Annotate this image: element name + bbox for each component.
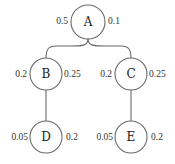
- node-b-left-value: 0.2: [15, 69, 27, 79]
- node-e: E 0.05 0.2: [96, 121, 163, 153]
- node-a: A 0.5 0.1: [56, 5, 120, 39]
- tree-diagram: A 0.5 0.1 B 0.2 0.25 C 0.2 0.25 D 0.05 0…: [0, 0, 175, 164]
- node-d-label: D: [41, 130, 51, 144]
- node-a-label: A: [83, 15, 93, 29]
- node-d-left-value: 0.05: [11, 132, 28, 142]
- node-b-right-value: 0.25: [64, 69, 81, 79]
- node-c: C 0.2 0.25: [100, 58, 166, 90]
- node-c-left-value: 0.2: [100, 69, 112, 79]
- node-e-right-value: 0.2: [151, 132, 163, 142]
- node-a-right-value: 0.1: [108, 16, 120, 26]
- node-c-label: C: [126, 67, 135, 81]
- node-a-left-value: 0.5: [56, 16, 68, 26]
- node-e-label: E: [127, 130, 136, 144]
- edge-a-c: [88, 39, 131, 58]
- node-b-label: B: [42, 67, 51, 81]
- node-b: B 0.2 0.25: [15, 58, 81, 90]
- edge-a-b: [46, 39, 88, 58]
- node-d-right-value: 0.2: [66, 132, 78, 142]
- node-c-right-value: 0.25: [149, 69, 166, 79]
- node-d: D 0.05 0.2: [11, 121, 78, 153]
- node-e-left-value: 0.05: [96, 132, 113, 142]
